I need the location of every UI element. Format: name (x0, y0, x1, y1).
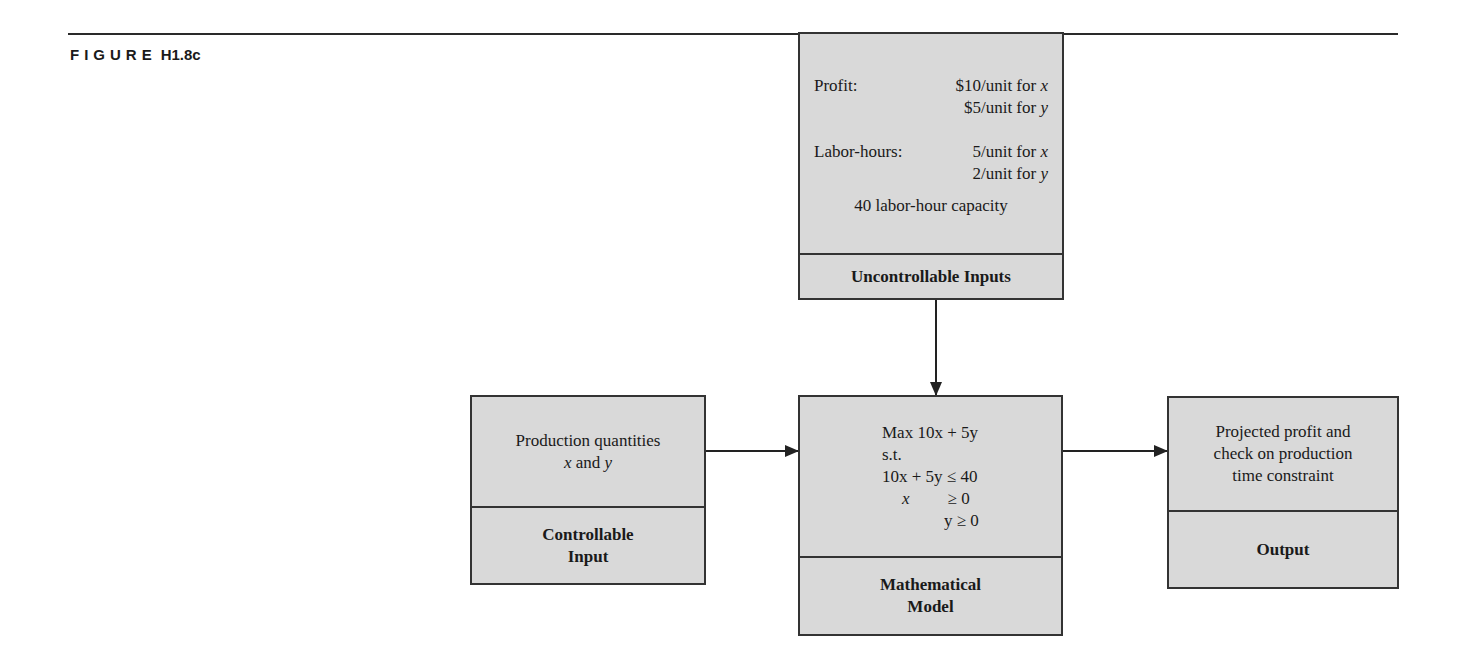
uncontrollable-inputs-title: Uncontrollable Inputs (800, 255, 1062, 298)
profit-label: Profit: (814, 75, 857, 97)
constraint-y-nonneg: y ≥ 0 (882, 510, 1061, 532)
x-and-y-text: x and y (564, 452, 612, 474)
var-x: x (1040, 142, 1048, 161)
labor-y-value: 2/unit for (972, 164, 1040, 183)
subject-to: s.t. (882, 444, 1061, 466)
labor-hours-label: Labor-hours: (814, 141, 902, 163)
controllable-input-content: Production quantities x and y (472, 397, 704, 508)
output-content: Projected profit and check on production… (1169, 398, 1397, 512)
var-y: y (1040, 98, 1048, 117)
capacity-text: 40 labor-hour capacity (800, 195, 1062, 217)
controllable-input-box: Production quantities x and y Controllab… (470, 395, 706, 585)
output-line-1: Projected profit and (1215, 421, 1350, 443)
figure-caption: FIGUREH1.8c (70, 46, 201, 63)
output-title: Output (1169, 512, 1397, 587)
arrow-down-to-model (935, 300, 937, 395)
production-quantities-text: Production quantities (516, 430, 661, 452)
constraint-labor: 10x + 5y ≤ 40 (882, 466, 1061, 488)
output-line-3: time constraint (1232, 465, 1334, 487)
var-x: x (1040, 76, 1048, 95)
var-y: y (1040, 164, 1048, 183)
objective-function: Max 10x + 5y (882, 422, 1061, 444)
arrow-right-to-model (706, 450, 798, 452)
figure-label-prefix: FIGURE (70, 46, 157, 63)
labor-x-value: 5/unit for (972, 142, 1040, 161)
constraint-x-nonneg: x≥ 0 (882, 488, 1061, 510)
arrow-right-to-output (1063, 450, 1167, 452)
controllable-input-title: ControllableInput (472, 508, 704, 583)
uncontrollable-inputs-content: Profit:$10/unit for x $5/unit for y Labo… (800, 34, 1062, 255)
figure-label-number: H1.8c (161, 46, 201, 63)
output-line-2: check on production (1214, 443, 1353, 465)
output-box: Projected profit and check on production… (1167, 396, 1399, 589)
profit-x-value: $10/unit for (955, 76, 1040, 95)
profit-y-value: $5/unit for (964, 98, 1041, 117)
top-rule (68, 33, 1398, 35)
mathematical-model-title: MathematicalModel (800, 558, 1061, 634)
mathematical-model-box: Max 10x + 5y s.t. 10x + 5y ≤ 40 x≥ 0 y ≥… (798, 395, 1063, 636)
uncontrollable-inputs-box: Profit:$10/unit for x $5/unit for y Labo… (798, 32, 1064, 300)
mathematical-model-content: Max 10x + 5y s.t. 10x + 5y ≤ 40 x≥ 0 y ≥… (800, 397, 1061, 558)
